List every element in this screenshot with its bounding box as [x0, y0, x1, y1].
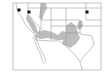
point-marker-sierra-site	[28, 11, 31, 14]
range-area-great-basin-strip	[39, 3, 47, 20]
point-marker-northern-california-site	[18, 9, 21, 12]
range-map	[0, 0, 106, 74]
point-marker-midwest-site	[86, 11, 89, 14]
